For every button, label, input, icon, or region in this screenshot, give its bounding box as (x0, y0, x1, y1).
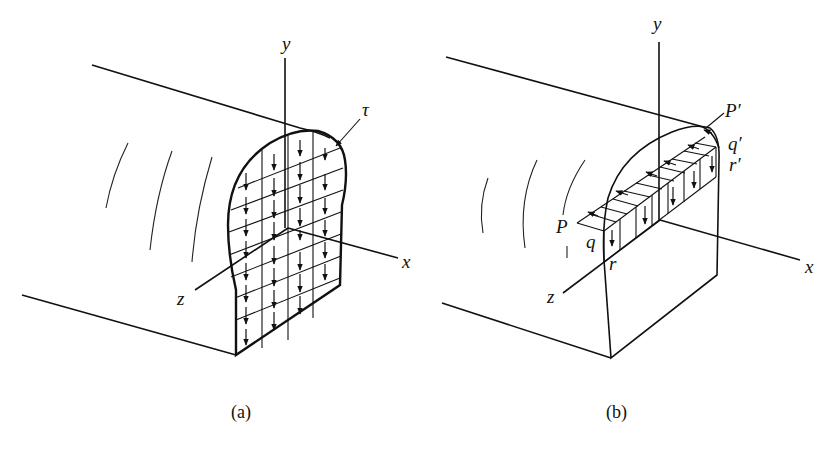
x-axis-a (288, 228, 398, 258)
panel-b: y x z P′ q′ r′ P q r (b) (442, 13, 814, 423)
beam-arc (106, 143, 128, 208)
caption-a: (a) (231, 402, 251, 423)
beam-arc (192, 157, 212, 262)
beam-bottom-edge (22, 295, 236, 355)
tau-label: τ (362, 99, 370, 120)
label-q-prime: q′ (728, 133, 743, 154)
panel-a: y x z τ (a) (22, 33, 411, 423)
label-r-prime: r′ (729, 154, 741, 175)
label-r: r (609, 253, 617, 274)
tau-leader (336, 119, 360, 146)
z-axis-label-b: z (546, 286, 555, 307)
label-p-prime: P′ (724, 100, 742, 121)
x-axis-label-b: x (804, 256, 814, 277)
beam-arc (523, 160, 537, 248)
x-axis-b (660, 220, 800, 260)
beam-bottom-edge (442, 303, 611, 358)
beam-arc (563, 160, 585, 215)
beam-arc (481, 178, 488, 233)
label-q: q (586, 231, 596, 252)
cross-section-outline (604, 126, 720, 358)
y-axis-label-b: y (651, 13, 662, 34)
figure: y x z τ (a) (0, 0, 831, 450)
caption-b: (b) (606, 402, 627, 423)
vertical-shear-arrows (612, 156, 712, 246)
stress-strip (577, 137, 716, 262)
beam-top-edge (446, 57, 700, 126)
z-axis-label-a: z (176, 288, 185, 309)
beam-arc (150, 151, 172, 250)
x-axis-label-a: x (401, 251, 411, 272)
label-p: P (555, 216, 568, 237)
p-prime-leader (706, 113, 724, 128)
y-axis-label-a: y (280, 33, 291, 54)
beam-top-edge (92, 65, 330, 138)
